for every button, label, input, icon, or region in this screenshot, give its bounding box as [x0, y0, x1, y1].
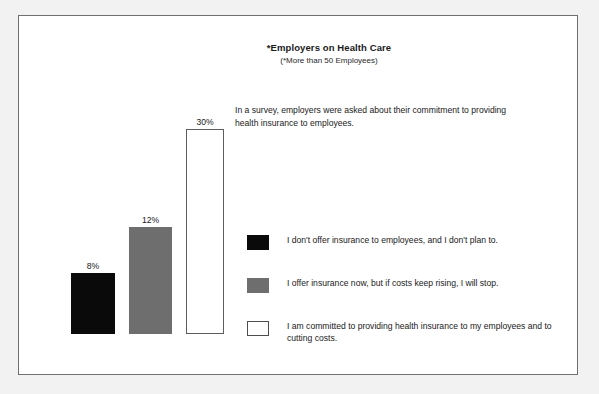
bar-value-label: 8% — [71, 261, 115, 271]
legend-swatch — [247, 235, 269, 250]
bar-group: 12% — [129, 213, 172, 334]
chart-legend: I don't offer insurance to employees, an… — [247, 235, 567, 364]
bar-group: 8% — [71, 259, 115, 334]
bar — [129, 227, 172, 334]
bar-value-label: 30% — [186, 117, 224, 127]
legend-label: I am committed to providing health insur… — [287, 320, 565, 345]
legend-label: I don't offer insurance to employees, an… — [287, 234, 565, 246]
bar — [71, 273, 115, 334]
legend-item: I don't offer insurance to employees, an… — [247, 235, 567, 261]
legend-swatch — [247, 321, 269, 336]
legend-item: I offer insurance now, but if costs keep… — [247, 278, 567, 304]
legend-label: I offer insurance now, but if costs keep… — [287, 277, 565, 289]
bar-group: 30% — [186, 115, 224, 334]
bar — [186, 129, 224, 334]
chart-frame: *Employers on Health Care (*More than 50… — [18, 15, 578, 375]
legend-swatch — [247, 278, 269, 293]
bar-value-label: 12% — [129, 215, 172, 225]
legend-item: I am committed to providing health insur… — [247, 321, 567, 347]
